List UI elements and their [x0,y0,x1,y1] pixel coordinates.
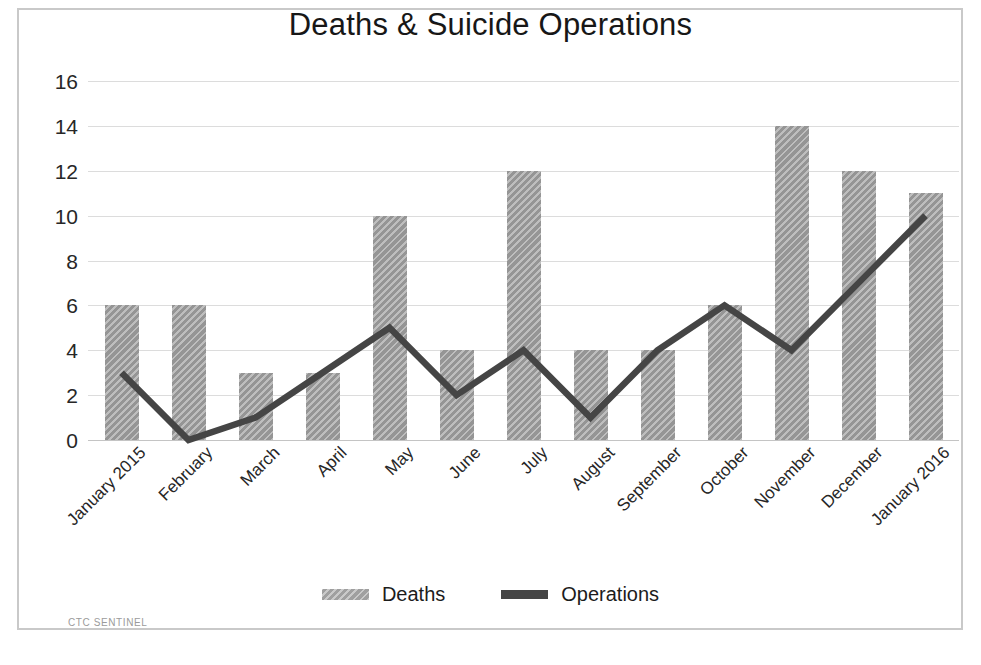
x-axis-label: March [236,443,284,491]
legend-item[interactable]: Operations [501,583,659,606]
page-title: Deaths & Suicide Operations [0,7,981,43]
plot-area [88,81,959,440]
y-axis-label: 16 [55,71,78,92]
y-axis-label: 8 [66,250,78,271]
watermark: CTC SENTINEL [68,617,147,628]
x-axis-label: November [750,443,820,513]
x-axis-label: October [696,443,753,500]
legend-bar-swatch-icon [322,589,369,600]
x-axis-label: April [312,443,350,481]
y-axis-label: 6 [66,295,78,316]
operations-line [122,216,926,440]
y-axis-label: 4 [66,340,78,361]
legend-item-label: Operations [561,583,659,606]
x-axis-tick-labels: January 2015FebruaryMarchAprilMayJuneJul… [88,443,959,563]
x-axis-label: August [567,443,619,495]
legend-item[interactable]: Deaths [322,583,445,606]
chart-legend: DeathsOperations [0,583,981,606]
y-axis-label: 2 [66,385,78,406]
y-axis-tick-labels: 1614121086420 [20,81,78,440]
x-axis-label: December [817,443,887,513]
legend-line-swatch-icon [501,590,548,599]
legend-item-label: Deaths [382,583,445,606]
x-axis-label: May [381,443,418,480]
y-axis-label: 12 [55,160,78,181]
x-axis-label: July [516,443,552,479]
x-axis-label: September [613,443,686,516]
chart-page: Deaths & Suicide Operations 161412108642… [0,0,981,665]
y-axis-label: 10 [55,205,78,226]
line-series-operations [88,81,959,440]
x-axis-label: June [444,443,484,483]
y-axis-label: 0 [66,430,78,451]
x-axis-label: February [154,443,216,505]
y-axis-label: 14 [55,115,78,136]
